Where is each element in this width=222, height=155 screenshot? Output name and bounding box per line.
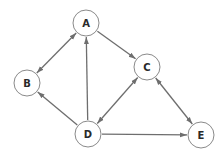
edge-d-b-arrow [38, 92, 78, 125]
edge-d-a-arrow [86, 37, 87, 120]
edge-a-c-arrow [97, 31, 135, 59]
node-b: B [14, 70, 40, 96]
edges-layer [37, 31, 193, 135]
edge-d-e-arrow [102, 134, 187, 135]
node-label: A [82, 18, 90, 29]
node-e: E [188, 122, 214, 148]
edge-c-e-bidirectional-arrow [156, 78, 193, 124]
node-a: A [73, 10, 99, 36]
graph-diagram: ABCDE [0, 0, 222, 155]
nodes-layer: ABCDE [14, 10, 214, 148]
node-label: C [143, 62, 150, 73]
node-label: B [23, 78, 31, 89]
edge-a-b-bidirectional-arrow [37, 33, 76, 73]
edge-d-c-bidirectional-arrow [97, 78, 137, 124]
node-label: E [198, 130, 205, 141]
node-d: D [75, 121, 101, 147]
node-c: C [134, 54, 160, 80]
node-label: D [84, 129, 92, 140]
